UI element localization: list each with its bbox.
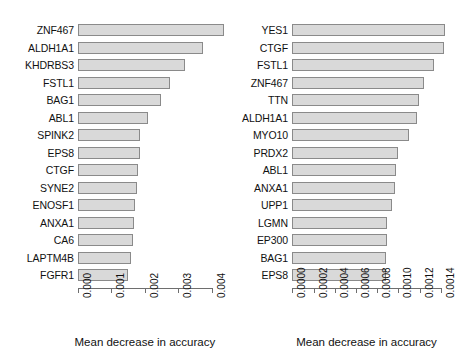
bar-row: ABL1: [0, 110, 232, 126]
x-axis-tick: [420, 288, 421, 293]
bar-row: KHDRBS3: [0, 57, 232, 73]
bar: [78, 94, 161, 106]
bar-category-label: CTGF: [260, 40, 288, 56]
bar-row: ANXA1: [232, 180, 464, 196]
x-axis-tick-label: 0.0006: [360, 267, 371, 298]
x-axis-tick: [178, 288, 179, 293]
x-axis-tick: [212, 288, 213, 293]
bar-row: BAG1: [232, 250, 464, 266]
bar-row: UPP1: [232, 197, 464, 213]
x-axis-tick-label: 0.0008: [381, 267, 392, 298]
bar-category-label: SYNE2: [40, 180, 74, 196]
bar: [78, 59, 185, 71]
x-axis-tick: [314, 288, 315, 293]
bar: [292, 59, 434, 71]
bar: [292, 252, 386, 264]
bar: [78, 217, 134, 229]
bar: [78, 112, 148, 124]
x-axis-tick-label: 0.0010: [402, 267, 413, 298]
bar-category-label: CTGF: [46, 162, 74, 178]
bar: [292, 217, 387, 229]
bar-category-label: KHDRBS3: [25, 57, 74, 73]
bar-category-label: LAPTM4B: [27, 250, 74, 266]
bar-category-label: ABL1: [263, 162, 288, 178]
bar-category-label: EPS8: [262, 267, 288, 283]
bar-row: EP300: [232, 232, 464, 248]
bar: [78, 234, 133, 246]
bar: [78, 129, 140, 141]
bar: [78, 24, 224, 36]
x-axis-tick-label: 0.0000: [296, 267, 307, 298]
bar-row: ALDH1A1: [232, 110, 464, 126]
x-axis-tick: [78, 288, 79, 293]
bar-category-label: BAG1: [46, 92, 74, 108]
x-axis-tick: [398, 288, 399, 293]
bar-category-label: BAG1: [260, 250, 288, 266]
bar-category-label: SPINK2: [37, 127, 74, 143]
bar-row: EPS8: [0, 145, 232, 161]
plot-area-right: YES1CTGFFSTL1ZNF467TTNALDH1A1MYO10PRDX2A…: [232, 0, 464, 284]
bar-row: SPINK2: [0, 127, 232, 143]
bar-category-label: ANXA1: [40, 215, 74, 231]
bar-row: ZNF467: [0, 22, 232, 38]
x-axis-title-right: Mean decrease in accuracy: [262, 336, 464, 348]
bar-row: CTGF: [0, 162, 232, 178]
bar-category-label: CA6: [54, 232, 74, 248]
plot-area-left: ZNF467ALDH1A1KHDRBS3FSTL1BAG1ABL1SPINK2E…: [0, 0, 232, 284]
bar-row: ENOSF1: [0, 197, 232, 213]
bar: [78, 147, 140, 159]
bar-category-label: FSTL1: [257, 57, 288, 73]
bar: [78, 42, 203, 54]
figure-root: ZNF467ALDH1A1KHDRBS3FSTL1BAG1ABL1SPINK2E…: [0, 0, 464, 358]
bar: [78, 182, 137, 194]
bar-category-label: ZNF467: [37, 22, 74, 38]
bar: [292, 164, 396, 176]
bar-row: TTN: [232, 92, 464, 108]
bar: [292, 199, 392, 211]
bar: [292, 182, 395, 194]
x-axis-tick-label: 0.000: [82, 273, 93, 298]
bar: [78, 199, 135, 211]
bar: [78, 252, 131, 264]
x-axis-tick-label: 0.0004: [339, 267, 350, 298]
bar: [292, 234, 386, 246]
bar-category-label: UPP1: [261, 197, 288, 213]
bar-row: LAPTM4B: [0, 250, 232, 266]
bar-row: ALDH1A1: [0, 40, 232, 56]
bar-row: ABL1: [232, 162, 464, 178]
bar-category-label: ENOSF1: [33, 197, 74, 213]
bar-category-label: ALDH1A1: [28, 40, 74, 56]
bar-row: ZNF467: [232, 75, 464, 91]
bar-category-label: FGFR1: [40, 267, 74, 283]
bar-row: PRDX2: [232, 145, 464, 161]
bar-category-label: EP300: [257, 232, 288, 248]
bar: [292, 77, 424, 89]
bar: [292, 42, 444, 54]
chart-panel-right: YES1CTGFFSTL1ZNF467TTNALDH1A1MYO10PRDX2A…: [232, 0, 464, 358]
bar: [292, 112, 417, 124]
x-axis-tick: [292, 288, 293, 293]
x-axis-tick: [441, 288, 442, 293]
x-axis-tick-label: 0.0012: [424, 267, 435, 298]
bar-row: SYNE2: [0, 180, 232, 196]
bar-row: LGMN: [232, 215, 464, 231]
x-axis-tick-label: 0.004: [216, 273, 227, 298]
bar-category-label: MYO10: [253, 127, 288, 143]
x-axis-tick: [335, 288, 336, 293]
bar: [292, 147, 397, 159]
bar-category-label: ABL1: [49, 110, 74, 126]
x-axis-tick: [356, 288, 357, 293]
bar-category-label: ANXA1: [254, 180, 288, 196]
bar: [78, 77, 170, 89]
x-axis-tick: [145, 288, 146, 293]
bar-category-label: TTN: [268, 92, 288, 108]
bar-category-label: PRDX2: [253, 145, 288, 161]
bar-category-label: LGMN: [258, 215, 288, 231]
bar: [292, 24, 445, 36]
bar-row: FSTL1: [232, 57, 464, 73]
bar: [292, 94, 419, 106]
bar-category-label: FSTL1: [43, 75, 74, 91]
bar-category-label: EPS8: [48, 145, 74, 161]
x-axis-tick: [111, 288, 112, 293]
x-axis-tick-label: 0.002: [149, 273, 160, 298]
